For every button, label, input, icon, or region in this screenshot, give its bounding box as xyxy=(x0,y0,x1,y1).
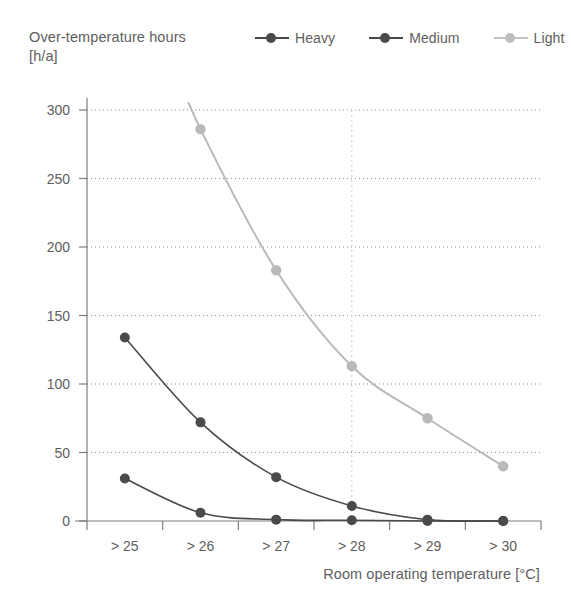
y-axis-ticks xyxy=(79,110,87,521)
data-point xyxy=(271,472,281,482)
x-tick-label: > 27 xyxy=(262,538,290,554)
x-axis-title: Room operating temperature [°C] xyxy=(323,566,540,582)
x-tick-label: > 28 xyxy=(338,538,366,554)
data-point xyxy=(347,515,357,525)
data-point xyxy=(196,417,206,427)
data-point xyxy=(120,332,130,342)
series-line xyxy=(125,337,503,521)
axis-lines xyxy=(75,98,541,521)
chart-figure: Over-temperature hours[h/a] Heavy Medium… xyxy=(0,0,571,614)
x-tick-label: > 29 xyxy=(414,538,442,554)
chart-svg: 050100150200250300 > 25> 26> 27> 28> 29>… xyxy=(0,0,571,614)
data-point xyxy=(422,413,432,423)
y-tick-labels: 050100150200250300 xyxy=(47,102,71,529)
data-point xyxy=(196,508,206,518)
x-tick-label: > 26 xyxy=(187,538,215,554)
series-line xyxy=(169,52,503,467)
series-light xyxy=(169,52,509,472)
series-line xyxy=(125,479,503,522)
x-tick-label: > 25 xyxy=(111,538,139,554)
gridlines xyxy=(87,110,541,453)
data-point xyxy=(271,265,281,275)
data-point xyxy=(195,124,205,134)
y-tick-label: 50 xyxy=(54,445,70,461)
data-point xyxy=(347,361,357,371)
x-tick-labels: > 25> 26> 27> 28> 29> 30 xyxy=(111,538,517,554)
y-tick-label: 0 xyxy=(62,513,70,529)
y-tick-label: 250 xyxy=(47,171,71,187)
series-medium xyxy=(120,332,508,526)
x-tick-label: > 30 xyxy=(489,538,517,554)
y-tick-label: 100 xyxy=(47,376,71,392)
data-point xyxy=(423,516,433,526)
data-point xyxy=(498,516,508,526)
data-point xyxy=(347,501,357,511)
data-point xyxy=(271,515,281,525)
y-tick-label: 200 xyxy=(47,239,71,255)
data-point xyxy=(498,461,508,471)
data-point xyxy=(120,474,130,484)
plot-area: 050100150200250300 > 25> 26> 27> 28> 29>… xyxy=(0,0,571,614)
x-axis-ticks xyxy=(87,521,541,530)
y-tick-label: 300 xyxy=(47,102,71,118)
series-heavy xyxy=(120,474,508,526)
y-tick-label: 150 xyxy=(47,308,71,324)
